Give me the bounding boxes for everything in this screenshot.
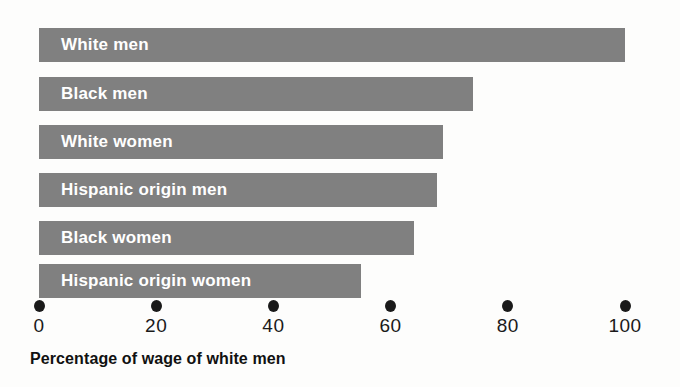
bar-row: Black women	[39, 221, 414, 255]
x-axis-tick-label: 80	[478, 315, 538, 337]
tick-dot-icon	[620, 300, 631, 312]
tick-dot-icon	[34, 300, 45, 312]
bar-row: Hispanic origin men	[39, 173, 437, 207]
x-axis-tick: 40	[243, 300, 303, 337]
bar-row: White men	[39, 28, 625, 62]
bar-label: Hispanic origin women	[61, 264, 251, 298]
x-axis: 0 20 40 60 80 100	[0, 300, 680, 350]
plot-area: White men Black men White women Hispanic…	[0, 0, 680, 300]
x-axis-title: Percentage of wage of white men	[30, 350, 286, 368]
tick-dot-icon	[502, 300, 513, 312]
bar-row: White women	[39, 125, 443, 159]
bar-row: Black men	[39, 77, 473, 111]
bar-label: Black women	[61, 221, 172, 255]
bar-chart: White men Black men White women Hispanic…	[0, 0, 680, 387]
x-axis-tick: 80	[478, 300, 538, 337]
x-axis-tick-label: 20	[126, 315, 186, 337]
tick-dot-icon	[385, 300, 396, 312]
bar-row: Hispanic origin women	[39, 264, 361, 298]
x-axis-tick: 100	[595, 300, 655, 337]
x-axis-tick: 20	[126, 300, 186, 337]
bar-label: White women	[61, 125, 173, 159]
tick-dot-icon	[151, 300, 162, 312]
x-axis-tick: 60	[361, 300, 421, 337]
bar-label: White men	[61, 28, 149, 62]
bar-label: Black men	[61, 77, 148, 111]
tick-dot-icon	[268, 300, 279, 312]
bar-label: Hispanic origin men	[61, 173, 227, 207]
x-axis-tick-label: 0	[9, 315, 69, 337]
x-axis-tick-label: 100	[595, 315, 655, 337]
x-axis-tick-label: 40	[243, 315, 303, 337]
x-axis-tick: 0	[9, 300, 69, 337]
x-axis-tick-label: 60	[361, 315, 421, 337]
